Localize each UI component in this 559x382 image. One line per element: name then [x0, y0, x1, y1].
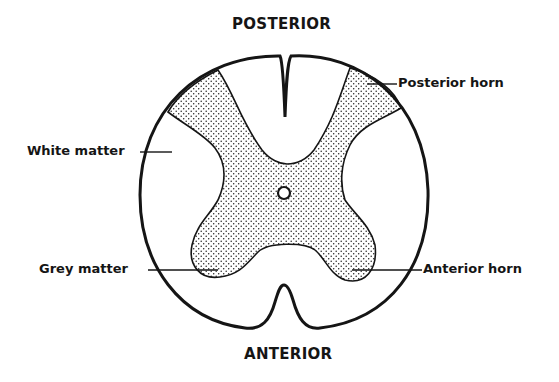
posterior-horn-label: Posterior horn: [398, 75, 504, 90]
anterior-label: ANTERIOR: [244, 345, 332, 363]
posterior-label: POSTERIOR: [232, 15, 331, 33]
white-matter-label: White matter: [27, 143, 125, 158]
grey-matter-label: Grey matter: [39, 261, 128, 276]
spinal-cord-figure: [0, 0, 559, 382]
spinal-cord-diagram: POSTERIOR ANTERIOR Posterior horn White …: [0, 0, 559, 382]
anterior-horn-label: Anterior horn: [423, 261, 522, 276]
central-canal: [278, 187, 290, 199]
